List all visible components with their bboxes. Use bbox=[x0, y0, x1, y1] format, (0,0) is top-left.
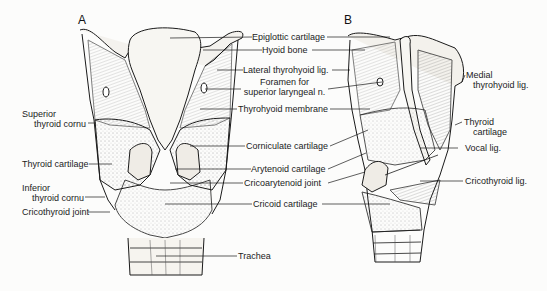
label-line: Medial bbox=[466, 70, 529, 80]
label-epiglottic-cartilage: Epiglottic cartilage bbox=[252, 32, 325, 42]
label-foramen-superior-laryngeal: Foramen for superior laryngeal n. bbox=[241, 77, 328, 97]
label-superior-thyroid-cornu: Superior thyroid cornu bbox=[6, 109, 86, 129]
label-line: superior laryngeal n. bbox=[241, 87, 328, 97]
label-hyoid-bone: Hyoid bone bbox=[262, 45, 308, 55]
label-cricoid-cartilage: Cricoid cartilage bbox=[253, 199, 318, 209]
larynx-diagram: A B Superior thyroid cornu Thyroid carti… bbox=[0, 0, 547, 291]
label-thyrohyoid-membrane: Thyrohyoid membrane bbox=[238, 104, 328, 114]
label-line: thyroid cornu bbox=[6, 119, 86, 129]
panel-b-letter: B bbox=[344, 13, 352, 27]
label-line: Thyroid bbox=[464, 117, 507, 127]
panel-b-drawing bbox=[348, 33, 464, 262]
label-line: cartilage bbox=[464, 127, 507, 137]
label-line: thyroid cornu bbox=[6, 193, 84, 203]
label-medial-thyrohyoid-lig: Medial thyrohyoid lig. bbox=[466, 70, 529, 90]
label-thyroid-cartilage-a: Thyroid cartilage bbox=[22, 159, 89, 169]
label-line: Superior bbox=[6, 109, 86, 119]
label-trachea: Trachea bbox=[238, 251, 271, 261]
label-cricothyroid-joint: Cricothyroid joint bbox=[22, 207, 89, 217]
label-vocal-lig: Vocal lig. bbox=[465, 143, 501, 153]
panel-a-drawing bbox=[80, 28, 243, 275]
label-arytenoid-cartilage: Arytenoid cartilage bbox=[251, 164, 326, 174]
label-line: Foramen for bbox=[241, 77, 328, 87]
panel-a-letter: A bbox=[78, 13, 86, 27]
label-cricoarytenoid-joint: Cricoarytenoid joint bbox=[244, 178, 321, 188]
label-line: Inferior bbox=[6, 183, 84, 193]
label-inferior-thyroid-cornu: Inferior thyroid cornu bbox=[6, 183, 84, 203]
label-cricothyroid-lig: Cricothyroid lig. bbox=[465, 176, 527, 186]
label-corniculate-cartilage: Corniculate cartilage bbox=[246, 141, 328, 151]
label-line: thyrohyoid lig. bbox=[466, 80, 529, 90]
label-lateral-thyrohyoid-lig: Lateral thyrohyoid lig. bbox=[243, 65, 329, 75]
label-thyroid-cartilage-b: Thyroid cartilage bbox=[464, 117, 507, 137]
